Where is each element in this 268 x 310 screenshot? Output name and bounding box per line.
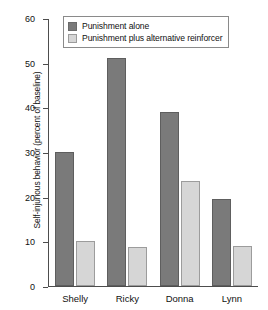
legend-swatch-icon xyxy=(68,22,77,31)
chart-legend: Punishment alonePunishment plus alternat… xyxy=(63,16,229,48)
x-axis-tick-label: Donna xyxy=(154,293,206,304)
legend-item: Punishment plus alternative reinforcer xyxy=(68,32,222,44)
legend-item: Punishment alone xyxy=(68,20,222,32)
y-axis-tick-label: 10 xyxy=(25,237,35,247)
y-axis-tick-label: 40 xyxy=(25,103,35,113)
bar xyxy=(128,247,147,286)
bar xyxy=(212,199,231,286)
y-axis-tick: 60 xyxy=(43,19,48,20)
bar xyxy=(181,181,200,286)
x-axis-tick-label: Shelly xyxy=(49,293,101,304)
y-axis-tick: 40 xyxy=(43,108,48,109)
bar-group: Donna xyxy=(154,19,206,286)
y-axis-tick: 50 xyxy=(43,64,48,65)
legend-label: Punishment alone xyxy=(82,21,149,31)
y-axis-tick: 20 xyxy=(43,198,48,199)
bar xyxy=(160,112,179,286)
legend-label: Punishment plus alternative reinforcer xyxy=(82,33,222,43)
x-axis-tick-label: Ricky xyxy=(101,293,153,304)
bar-chart-figure: Self-injurious behavior (percent of base… xyxy=(0,0,268,310)
bar xyxy=(76,241,95,286)
y-axis-tick-label: 0 xyxy=(30,282,35,292)
y-axis-tick-label: 30 xyxy=(25,148,35,158)
y-axis-tick-label: 50 xyxy=(25,59,35,69)
x-axis-tick-label: Lynn xyxy=(206,293,258,304)
y-axis-tick: 30 xyxy=(43,153,48,154)
bar-group: Lynn xyxy=(206,19,258,286)
bar xyxy=(233,246,252,286)
x-axis-spine xyxy=(48,286,258,287)
plot-area: 0102030405060 ShellyRickyDonnaLynn xyxy=(48,19,258,287)
legend-swatch-icon xyxy=(68,34,77,43)
y-axis-tick: 0 xyxy=(43,287,48,288)
y-axis-tick-label: 20 xyxy=(25,193,35,203)
y-axis-tick-label: 60 xyxy=(25,14,35,24)
bar-group: Ricky xyxy=(101,19,153,286)
bar xyxy=(55,152,74,286)
y-axis-tick: 10 xyxy=(43,242,48,243)
bar xyxy=(107,58,126,286)
bar-groups: ShellyRickyDonnaLynn xyxy=(49,19,258,286)
bar-group: Shelly xyxy=(49,19,101,286)
